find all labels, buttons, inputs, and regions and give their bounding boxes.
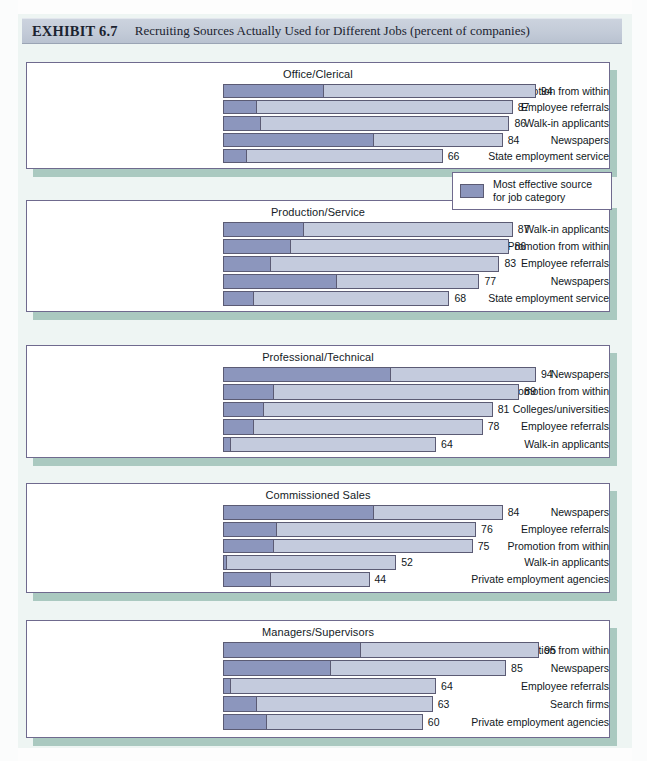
bar-label: Private employment agencies — [431, 571, 609, 588]
bar-label: Employee referrals — [431, 677, 609, 695]
page-bottom-margin — [0, 748, 647, 761]
bar-segment-most-effective — [224, 257, 271, 270]
bar-segment-most-effective — [224, 643, 361, 657]
bar-value-label: 78 — [488, 418, 500, 435]
bar — [223, 116, 509, 130]
bar-segment-most-effective — [224, 403, 264, 416]
bar-value-label: 64 — [441, 677, 453, 695]
bar-row: Walk-in applicants52 — [27, 554, 609, 571]
bar — [223, 291, 449, 306]
panel-rows: Newspapers94Promotion from within89Colle… — [27, 366, 609, 453]
bar-row: Walk-in applicants87 — [27, 221, 609, 238]
bar-value-label: 52 — [401, 554, 413, 571]
bar-value-label: 89 — [524, 383, 536, 400]
bar-row: Private employment agencies60 — [27, 713, 609, 731]
bar-row: Employee referrals87 — [27, 99, 609, 115]
legend-label: Most effective source for job category — [493, 178, 592, 204]
bar — [223, 239, 509, 254]
bar-row: Private employment agencies44 — [27, 571, 609, 588]
panel-body: Professional/TechnicalNewspapers94Promot… — [26, 345, 610, 458]
bar — [223, 84, 536, 98]
bar-value-label: 86 — [514, 115, 526, 131]
bar-segment-most-effective — [224, 506, 374, 519]
bar-value-label: 44 — [375, 571, 387, 588]
bar-segment-most-effective — [224, 385, 274, 398]
bar-row: Promotion from within75 — [27, 538, 609, 555]
panel-title: Managers/Supervisors — [27, 626, 609, 638]
bar — [223, 660, 506, 676]
bar-value-label: 83 — [504, 255, 516, 272]
bar — [223, 149, 443, 163]
bar — [223, 437, 436, 452]
panel-rows: Promotion from within94Employee referral… — [27, 83, 609, 164]
bar — [223, 555, 396, 570]
bar-segment-most-effective — [224, 438, 231, 451]
panel-body: Production/ServiceWalk-in applicants87Pr… — [26, 200, 610, 312]
bar-value-label: 94 — [541, 83, 553, 99]
bar-value-label: 66 — [448, 148, 460, 164]
legend-label-line1: Most effective source — [493, 178, 592, 191]
bar — [223, 678, 436, 694]
bar-segment-most-effective — [224, 368, 391, 381]
bar-row: State employment service66 — [27, 148, 609, 164]
bar-value-label: 63 — [438, 695, 450, 713]
bar-value-label: 60 — [428, 713, 440, 731]
panel-body: Office/ClericalPromotion from within94Em… — [26, 62, 610, 169]
bar-segment-most-effective — [224, 697, 257, 711]
bar-row: Newspapers85 — [27, 659, 609, 677]
bar-row: Newspapers84 — [27, 132, 609, 148]
bar-value-label: 95 — [544, 641, 556, 659]
bar-value-label: 76 — [481, 521, 493, 538]
bar-row: Promotion from within86 — [27, 238, 609, 255]
bar-segment-most-effective — [224, 679, 231, 693]
bar-value-label: 77 — [484, 273, 496, 290]
bar — [223, 539, 473, 554]
bar-segment-most-effective — [224, 134, 374, 146]
page-right-margin — [632, 0, 647, 761]
bar-row: State employment service68 — [27, 290, 609, 307]
exhibit-number: EXHIBIT 6.7 — [32, 23, 118, 40]
chart-panel: Office/ClericalPromotion from within94Em… — [26, 62, 610, 169]
page-left-margin — [0, 0, 18, 761]
bar-value-label: 81 — [498, 401, 510, 418]
chart-panel: Professional/TechnicalNewspapers94Promot… — [26, 345, 610, 458]
bar-segment-most-effective — [224, 556, 227, 569]
bar-label: Search firms — [431, 695, 609, 713]
bar-segment-most-effective — [224, 85, 324, 97]
bar-value-label: 84 — [508, 504, 520, 521]
bar — [223, 572, 370, 587]
legend-box: Most effective source for job category — [452, 172, 612, 210]
panel-title: Professional/Technical — [27, 351, 609, 363]
bar-value-label: 94 — [541, 366, 553, 383]
bar-row: Promotion from within94 — [27, 83, 609, 99]
bar-label: Private employment agencies — [431, 713, 609, 731]
bar-value-label: 85 — [511, 659, 523, 677]
bar-row: Walk-in applicants64 — [27, 436, 609, 453]
bar-segment-most-effective — [224, 101, 257, 113]
bar-row: Employee referrals78 — [27, 418, 609, 435]
bar-label: Walk-in applicants — [431, 554, 609, 571]
chart-panel: Production/ServiceWalk-in applicants87Pr… — [26, 200, 610, 312]
bar — [223, 505, 503, 520]
bar-value-label: 87 — [518, 221, 530, 238]
chart-panel: Commissioned SalesNewspapers84Employee r… — [26, 483, 610, 593]
bar-value-label: 64 — [441, 436, 453, 453]
bar-row: Walk-in applicants86 — [27, 115, 609, 131]
bar — [223, 714, 423, 730]
bar — [223, 696, 433, 712]
bar-row: Promotion from within95 — [27, 641, 609, 659]
bar-segment-most-effective — [224, 275, 337, 288]
legend-swatch-most-effective — [460, 184, 484, 198]
panel-rows: Promotion from within95Newspapers85Emplo… — [27, 641, 609, 733]
legend-label-line2: for job category — [493, 191, 592, 204]
bar-segment-most-effective — [224, 292, 254, 305]
bar-segment-most-effective — [224, 240, 291, 253]
exhibit-title: Recruiting Sources Actually Used for Dif… — [135, 23, 530, 39]
bar — [223, 367, 536, 382]
bar-value-label: 75 — [478, 538, 490, 555]
bar-segment-most-effective — [224, 523, 277, 536]
panel-rows: Walk-in applicants87Promotion from withi… — [27, 221, 609, 307]
panel-title: Office/Clerical — [27, 68, 609, 80]
panel-rows: Newspapers84Employee referrals76Promotio… — [27, 504, 609, 588]
bar-segment-most-effective — [224, 573, 271, 586]
